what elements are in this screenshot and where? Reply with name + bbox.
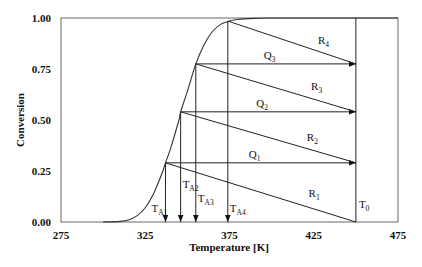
plot-frame <box>61 18 398 222</box>
x-tick-label: 275 <box>53 229 70 241</box>
x-tick-label: 425 <box>306 229 323 241</box>
ta-label-2: TA2 <box>183 178 199 193</box>
r-label-2: R2 <box>307 131 318 146</box>
conversion-temperature-chart: 0.000.250.500.751.00 275325375425475 Tem… <box>0 0 422 267</box>
r-line-3 <box>196 64 356 112</box>
r-label-3: R3 <box>311 80 322 95</box>
y-axis-ticks: 0.000.250.500.751.00 <box>32 12 52 228</box>
y-tick-label: 1.00 <box>32 12 52 24</box>
q-label-1: Q1 <box>249 148 261 163</box>
y-tick-label: 0.00 <box>32 216 52 228</box>
q-label-3: Q3 <box>264 49 276 64</box>
process-path-annotations: T0TA1TA2TA3TA4Q1Q2Q3R1R2R3R4 <box>151 18 369 222</box>
plot-area-border <box>61 18 398 222</box>
r-line-4 <box>228 21 356 64</box>
r-label-4: R4 <box>318 34 329 49</box>
conversion-curve-line <box>103 18 272 222</box>
q-label-2: Q2 <box>256 97 268 112</box>
x-tick-label: 325 <box>137 229 154 241</box>
t0-label: T0 <box>359 198 370 213</box>
y-tick-label: 0.25 <box>32 165 52 177</box>
ta-label-3: TA3 <box>198 192 214 207</box>
r-line-2 <box>181 112 356 163</box>
y-axis-title: Conversion <box>14 93 26 147</box>
x-tick-label: 375 <box>221 229 238 241</box>
y-tick-label: 0.75 <box>32 63 52 75</box>
x-tick-label: 475 <box>390 229 407 241</box>
r-label-1: R1 <box>309 187 320 202</box>
conversion-curve <box>103 18 398 222</box>
x-axis-title: Temperature [K] <box>189 241 269 253</box>
y-tick-label: 0.50 <box>32 114 52 126</box>
ta-label-4: TA4 <box>230 202 246 217</box>
x-axis-ticks: 275325375425475 <box>53 229 407 241</box>
